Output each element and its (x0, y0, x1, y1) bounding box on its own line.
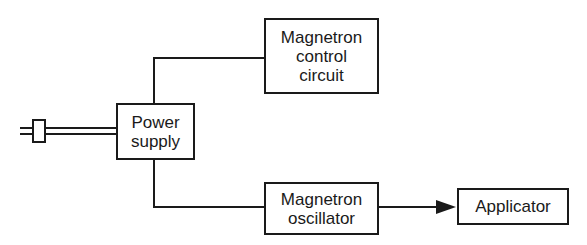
connector-power-to-control (154, 58, 265, 104)
applicator-label: Applicator (475, 197, 551, 216)
power-plug-icon (20, 120, 45, 142)
control-label-line-3: circuit (299, 66, 343, 85)
oscillator-label-line-2: oscillator (288, 209, 355, 228)
control-label-line-1: Magnetron (281, 28, 362, 47)
power-supply-block: Power supply (116, 103, 195, 160)
connector-power-to-oscillator (154, 159, 265, 207)
oscillator-label-line-1: Magnetron (281, 190, 362, 209)
arrow-oscillator-to-applicator (377, 200, 456, 214)
power-supply-label-line-2: supply (131, 132, 180, 151)
power-cord (45, 128, 117, 134)
magnetron-oscillator-block: Magnetron oscillator (264, 182, 379, 235)
applicator-block: Applicator (457, 188, 569, 225)
power-supply-label-line-1: Power (131, 113, 179, 132)
control-label-line-2: control (296, 47, 347, 66)
magnetron-control-circuit-block: Magnetron control circuit (264, 18, 379, 94)
